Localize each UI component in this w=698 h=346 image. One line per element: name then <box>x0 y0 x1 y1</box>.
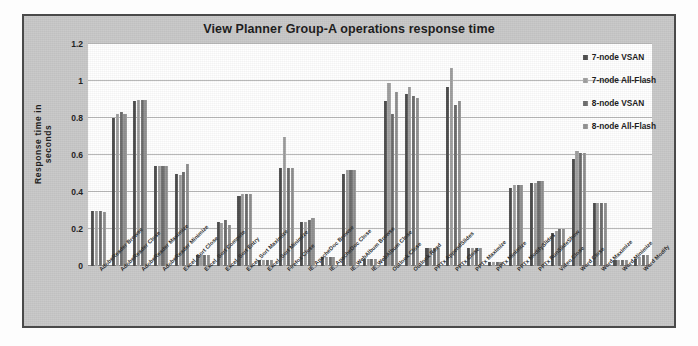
legend-item[interactable]: 8-node All-Flash <box>583 121 656 131</box>
bar <box>617 260 620 266</box>
y-axis-title: Response time in seconds <box>33 84 53 204</box>
bar <box>367 259 370 266</box>
bar <box>112 118 115 266</box>
bar-group <box>527 44 548 266</box>
bar <box>262 260 265 266</box>
bar <box>133 101 136 266</box>
bar <box>220 223 223 266</box>
y-axis-tick-label: 0.6 <box>71 150 83 160</box>
legend-label: 8-node VSAN <box>592 98 645 108</box>
y-axis-tick-label: 0.2 <box>71 224 83 234</box>
bar <box>541 181 544 266</box>
bar-group <box>443 44 464 266</box>
bar <box>488 262 491 266</box>
bar <box>141 100 144 267</box>
bar <box>450 68 453 266</box>
bar <box>454 105 457 266</box>
bar-group <box>88 44 109 266</box>
legend-swatch-icon <box>583 124 588 129</box>
bar <box>95 211 98 267</box>
y-axis-tick-label: 0.4 <box>71 187 83 197</box>
scanned-page: View Planner Group-A operations response… <box>0 0 698 346</box>
bar <box>99 211 102 267</box>
legend-item[interactable]: 7-node All-Flash <box>583 75 656 85</box>
legend-item[interactable]: 8-node VSAN <box>583 98 656 108</box>
bar <box>91 211 94 267</box>
bar <box>387 83 390 266</box>
bar-group <box>213 44 234 266</box>
bar <box>137 100 140 267</box>
bar <box>412 96 415 266</box>
bar <box>353 170 356 266</box>
legend-label: 8-node All-Flash <box>592 121 656 131</box>
bar-group <box>255 44 276 266</box>
bar <box>408 87 411 266</box>
bar-group <box>506 44 527 266</box>
legend-swatch-icon <box>583 55 588 60</box>
legend-label: 7-node VSAN <box>592 52 645 62</box>
chart-legend: 7-node VSAN7-node All-Flash8-node VSAN8-… <box>583 52 656 131</box>
legend-item[interactable]: 7-node VSAN <box>583 52 656 62</box>
bar <box>249 194 252 266</box>
bar <box>245 194 248 266</box>
bar-group <box>318 44 339 266</box>
y-axis-tick-label: 0.8 <box>71 113 83 123</box>
bar-group <box>422 44 443 266</box>
bar-group <box>109 44 130 266</box>
chart-frame: View Planner Group-A operations response… <box>22 14 676 328</box>
chart-title: View Planner Group-A operations response… <box>24 22 674 36</box>
legend-swatch-icon <box>583 78 588 83</box>
bar <box>520 185 523 266</box>
bar <box>600 203 603 266</box>
bar <box>116 114 119 266</box>
y-axis-tick-label: 1 <box>78 76 83 86</box>
y-axis-tick-label: 0 <box>78 261 83 271</box>
legend-swatch-icon <box>583 101 588 106</box>
y-axis-tick-label: 1.2 <box>71 39 83 49</box>
x-axis-labels: AdobeReader BrowseAdobeReader CloseAdobe… <box>88 268 652 326</box>
bar <box>492 262 495 266</box>
bar <box>604 203 607 266</box>
legend-label: 7-node All-Flash <box>592 75 656 85</box>
bar <box>103 212 106 266</box>
bar <box>446 87 449 266</box>
bar-group <box>485 44 506 266</box>
bar <box>165 166 168 266</box>
